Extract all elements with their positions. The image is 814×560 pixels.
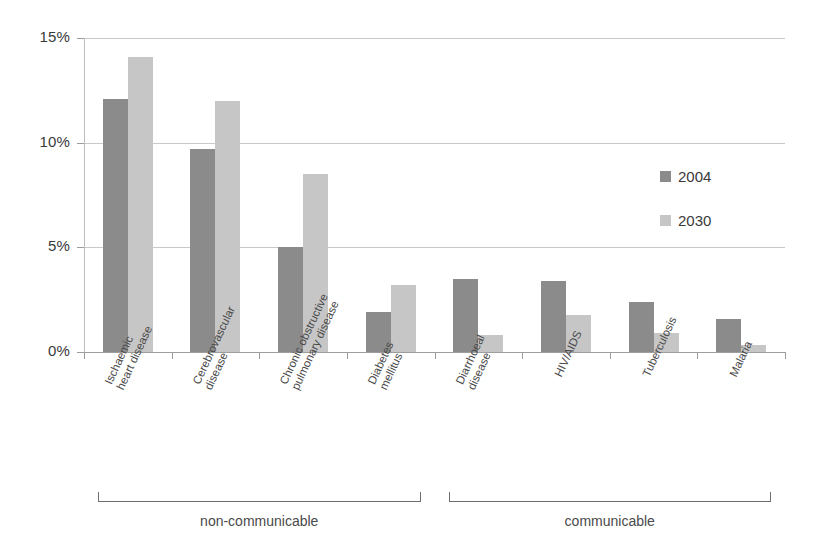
x-axis-tick-mark [172, 352, 173, 359]
bracket-label-non-communicable: non-communicable [98, 513, 421, 529]
legend-item-2030[interactable]: 2030 [660, 212, 711, 228]
x-axis-tick-mark [697, 352, 698, 359]
bar-2004-0 [103, 99, 128, 352]
x-axis-tick-mark [259, 352, 260, 359]
y-axis-tick-mark [77, 247, 84, 248]
legend: 20042030 [660, 168, 711, 256]
bar-chart: 0%5%10%15% Ischaemicheart diseaseCerebro… [0, 0, 814, 560]
bar-2030-0 [128, 57, 153, 352]
legend-swatch-icon [660, 171, 671, 182]
bracket-communicable [449, 492, 772, 502]
bar-2004-7 [716, 319, 741, 352]
bar-2030-3 [391, 285, 416, 352]
bar-2004-6 [629, 302, 654, 352]
x-axis-tick-mark [435, 352, 436, 359]
bracket-non-communicable [98, 492, 421, 502]
y-axis-tick-label: 5% [8, 237, 70, 254]
y-axis-labels: 0%5%10%15% [0, 0, 70, 560]
y-axis-tick-mark [77, 143, 84, 144]
bracket-label-communicable: communicable [449, 513, 772, 529]
x-axis-tick-mark [610, 352, 611, 359]
legend-label: 2004 [678, 168, 711, 185]
y-axis-tick-mark [77, 352, 84, 353]
y-axis-tick-label: 0% [8, 342, 70, 359]
legend-swatch-icon [660, 215, 671, 226]
legend-label: 2030 [678, 212, 711, 229]
y-axis-tick-mark [77, 38, 84, 39]
y-axis-tick-label: 15% [8, 28, 70, 45]
legend-item-2004[interactable]: 2004 [660, 168, 711, 184]
x-axis-tick-mark [84, 352, 85, 359]
bar-2004-1 [190, 149, 215, 352]
bar-2004-5 [541, 281, 566, 352]
x-axis-tick-mark [347, 352, 348, 359]
x-axis-tick-mark [522, 352, 523, 359]
y-axis-tick-label: 10% [8, 133, 70, 150]
x-axis-tick-mark [785, 352, 786, 359]
